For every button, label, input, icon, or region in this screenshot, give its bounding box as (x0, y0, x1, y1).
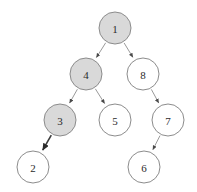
tree-diagram-canvas: 14835726 (0, 0, 197, 192)
tree-edge (151, 89, 158, 102)
tree-node-label: 8 (140, 69, 146, 81)
tree-edge (70, 89, 78, 103)
tree-node-label: 5 (112, 115, 118, 127)
tree-edge (124, 43, 133, 57)
tree-edge (96, 43, 105, 58)
tree-node-label: 6 (141, 162, 147, 174)
tree-node[interactable]: 3 (44, 104, 76, 136)
tree-diagram: 14835726 (0, 0, 197, 192)
tree-node-label: 1 (112, 23, 118, 35)
tree-node-label: 7 (165, 115, 171, 127)
tree-node[interactable]: 8 (127, 58, 159, 90)
tree-node[interactable]: 2 (17, 151, 49, 183)
tree-node[interactable]: 5 (99, 104, 131, 136)
tree-edge (95, 89, 104, 104)
tree-node-label: 4 (83, 69, 89, 81)
tree-edge (153, 136, 160, 150)
tree-node-label: 2 (30, 162, 36, 174)
tree-node[interactable]: 1 (99, 12, 131, 44)
tree-edge (43, 135, 52, 150)
tree-node[interactable]: 7 (152, 104, 184, 136)
tree-node[interactable]: 4 (70, 58, 102, 90)
tree-node[interactable]: 6 (128, 151, 160, 183)
tree-node-label: 3 (57, 115, 63, 127)
